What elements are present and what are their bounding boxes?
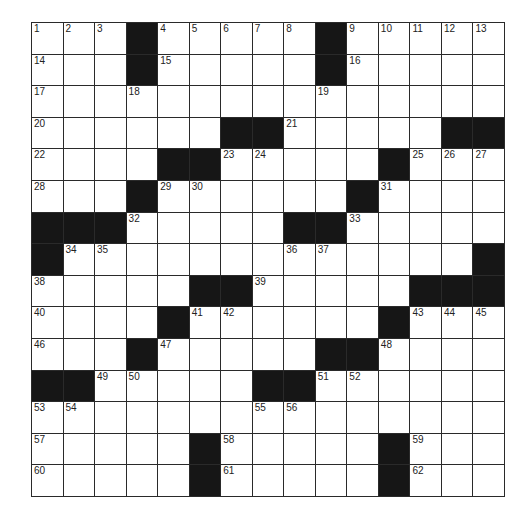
- grid-cell[interactable]: 24: [253, 149, 284, 180]
- grid-cell[interactable]: [442, 55, 473, 86]
- grid-cell[interactable]: [442, 213, 473, 244]
- grid-cell[interactable]: [284, 86, 315, 117]
- grid-cell[interactable]: [410, 371, 441, 402]
- grid-cell[interactable]: [347, 86, 378, 117]
- grid-cell[interactable]: [221, 371, 252, 402]
- grid-cell[interactable]: 19: [316, 86, 347, 117]
- grid-cell[interactable]: 2: [64, 23, 95, 54]
- grid-cell[interactable]: [127, 244, 158, 275]
- grid-cell[interactable]: [127, 402, 158, 433]
- grid-cell[interactable]: [473, 371, 504, 402]
- grid-cell[interactable]: [316, 307, 347, 338]
- grid-cell[interactable]: 42: [221, 307, 252, 338]
- grid-cell[interactable]: [410, 118, 441, 149]
- grid-cell[interactable]: [95, 149, 126, 180]
- grid-cell[interactable]: 56: [284, 402, 315, 433]
- grid-cell[interactable]: [221, 213, 252, 244]
- grid-cell[interactable]: [316, 276, 347, 307]
- grid-cell[interactable]: [253, 181, 284, 212]
- grid-cell[interactable]: 9: [347, 23, 378, 54]
- grid-cell[interactable]: [95, 118, 126, 149]
- grid-cell[interactable]: 18: [127, 86, 158, 117]
- grid-cell[interactable]: [284, 307, 315, 338]
- grid-cell[interactable]: [95, 181, 126, 212]
- grid-cell[interactable]: 55: [253, 402, 284, 433]
- grid-cell[interactable]: [410, 55, 441, 86]
- grid-cell[interactable]: 57: [32, 434, 63, 465]
- grid-cell[interactable]: [316, 465, 347, 496]
- grid-cell[interactable]: 60: [32, 465, 63, 496]
- grid-cell[interactable]: [221, 244, 252, 275]
- grid-cell[interactable]: 13: [473, 23, 504, 54]
- grid-cell[interactable]: 50: [127, 371, 158, 402]
- grid-cell[interactable]: [64, 55, 95, 86]
- grid-cell[interactable]: [221, 339, 252, 370]
- grid-cell[interactable]: [127, 149, 158, 180]
- grid-cell[interactable]: [442, 465, 473, 496]
- grid-cell[interactable]: [379, 402, 410, 433]
- grid-cell[interactable]: [379, 86, 410, 117]
- grid-cell[interactable]: [253, 213, 284, 244]
- grid-cell[interactable]: [410, 244, 441, 275]
- grid-cell[interactable]: [379, 55, 410, 86]
- grid-cell[interactable]: [347, 244, 378, 275]
- grid-cell[interactable]: [473, 86, 504, 117]
- grid-cell[interactable]: [379, 118, 410, 149]
- grid-cell[interactable]: [64, 339, 95, 370]
- grid-cell[interactable]: 49: [95, 371, 126, 402]
- grid-cell[interactable]: 27: [473, 149, 504, 180]
- grid-cell[interactable]: [127, 465, 158, 496]
- grid-cell[interactable]: 6: [221, 23, 252, 54]
- grid-cell[interactable]: [95, 55, 126, 86]
- grid-cell[interactable]: [158, 244, 189, 275]
- grid-cell[interactable]: [410, 86, 441, 117]
- grid-cell[interactable]: [442, 371, 473, 402]
- grid-cell[interactable]: [158, 118, 189, 149]
- grid-cell[interactable]: [284, 276, 315, 307]
- grid-cell[interactable]: [95, 276, 126, 307]
- grid-cell[interactable]: [64, 307, 95, 338]
- grid-cell[interactable]: 58: [221, 434, 252, 465]
- grid-cell[interactable]: [190, 86, 221, 117]
- grid-cell[interactable]: [316, 149, 347, 180]
- grid-cell[interactable]: [316, 434, 347, 465]
- grid-cell[interactable]: [95, 339, 126, 370]
- grid-cell[interactable]: [284, 149, 315, 180]
- grid-cell[interactable]: [95, 434, 126, 465]
- grid-cell[interactable]: [284, 181, 315, 212]
- grid-cell[interactable]: [473, 213, 504, 244]
- grid-cell[interactable]: [158, 434, 189, 465]
- grid-cell[interactable]: [379, 371, 410, 402]
- grid-cell[interactable]: [190, 371, 221, 402]
- grid-cell[interactable]: [95, 402, 126, 433]
- grid-cell[interactable]: 25: [410, 149, 441, 180]
- grid-cell[interactable]: [64, 86, 95, 117]
- grid-cell[interactable]: 40: [32, 307, 63, 338]
- grid-cell[interactable]: [379, 213, 410, 244]
- grid-cell[interactable]: [410, 181, 441, 212]
- grid-cell[interactable]: [64, 276, 95, 307]
- grid-cell[interactable]: 59: [410, 434, 441, 465]
- grid-cell[interactable]: [442, 402, 473, 433]
- grid-cell[interactable]: 10: [379, 23, 410, 54]
- grid-cell[interactable]: [64, 149, 95, 180]
- grid-cell[interactable]: [127, 276, 158, 307]
- grid-cell[interactable]: [473, 181, 504, 212]
- grid-cell[interactable]: 33: [347, 213, 378, 244]
- grid-cell[interactable]: 51: [316, 371, 347, 402]
- grid-cell[interactable]: [64, 181, 95, 212]
- grid-cell[interactable]: [253, 55, 284, 86]
- grid-cell[interactable]: 12: [442, 23, 473, 54]
- grid-cell[interactable]: [221, 402, 252, 433]
- grid-cell[interactable]: 34: [64, 244, 95, 275]
- grid-cell[interactable]: 43: [410, 307, 441, 338]
- grid-cell[interactable]: 52: [347, 371, 378, 402]
- grid-cell[interactable]: 15: [158, 55, 189, 86]
- grid-cell[interactable]: 1: [32, 23, 63, 54]
- grid-cell[interactable]: [473, 402, 504, 433]
- grid-cell[interactable]: [379, 276, 410, 307]
- grid-cell[interactable]: 21: [284, 118, 315, 149]
- grid-cell[interactable]: [410, 213, 441, 244]
- grid-cell[interactable]: [253, 244, 284, 275]
- grid-cell[interactable]: [379, 244, 410, 275]
